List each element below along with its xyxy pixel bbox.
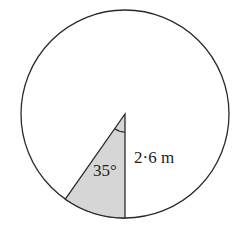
circle-diagram: 35° 2·6 m <box>0 0 233 231</box>
angle-label: 35° <box>93 161 117 180</box>
radius-label: 2·6 m <box>134 148 174 167</box>
